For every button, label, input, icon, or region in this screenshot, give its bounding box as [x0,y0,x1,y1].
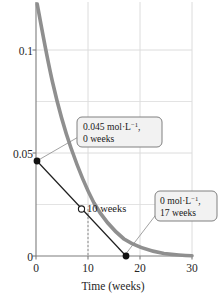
callout-initial-value: 0.045 [83,121,105,132]
marker-midpoint [78,206,84,212]
marker-intercept-point [123,253,130,260]
callout-initial-comma: , [138,121,140,132]
marker-initial-point [34,158,41,165]
y-tick-label-0: 0 [27,251,33,263]
y-tick-label-0.1: 0.1 [19,45,34,57]
callout-intercept-point: 0 mol·L−1, 17 weeks [155,191,217,221]
figure-container: 0.1 0.05 0 0 10 20 30 Time (weeks) 10 [0,0,219,300]
y-tick-label-0.05: 0.05 [13,148,33,160]
callout-intercept-line2: 17 weeks [160,207,196,218]
x-axis-title: Time (weeks) [81,280,144,293]
callout-initial-exponent: −1 [131,121,138,128]
concentration-decay-chart: 0.1 0.05 0 0 10 20 30 Time (weeks) 10 [0,0,219,300]
callout-intercept-comma: , [198,195,200,206]
callout-initial-unit: mol·L [107,121,131,132]
x-tick-label-10: 10 [82,262,94,274]
callout-intercept-exponent: −1 [191,195,198,202]
callout-intercept-unit: mol·L [167,195,191,206]
callout-initial-point: 0.045 mol·L−1, 0 weeks [77,117,162,147]
x-tick-label-30: 30 [186,262,198,274]
x-tick-label-20: 20 [134,262,146,274]
midpoint-inline-label: 10 weeks [87,203,126,214]
callout-initial-line2: 0 weeks [83,133,114,144]
tick-labels: 0.1 0.05 0 0 10 20 30 [13,45,198,275]
x-tick-label-0: 0 [33,262,39,274]
